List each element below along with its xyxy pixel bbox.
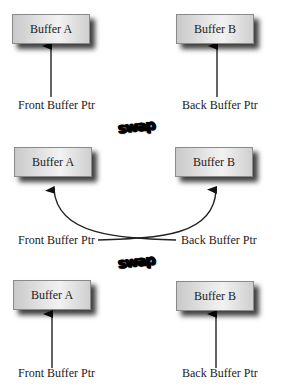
- buffer-a-box-2: Buffer A: [14, 147, 92, 177]
- buffer-b-box-3: Buffer B: [176, 281, 254, 311]
- buffer-b-label-1: Buffer B: [194, 22, 236, 37]
- back-ptr-label-1: Back Buffer Ptr: [182, 98, 258, 113]
- buffer-b-label-3: Buffer B: [194, 289, 236, 304]
- front-ptr-label-3: Front Buffer Ptr: [18, 366, 95, 381]
- back-ptr-label-2: Back Buffer Ptr: [181, 233, 257, 248]
- buffer-a-box-1: Buffer A: [12, 14, 90, 44]
- arrows-layer: [0, 0, 281, 387]
- buffer-a-box-3: Buffer A: [13, 280, 91, 310]
- buffer-b-box-2: Buffer B: [175, 147, 253, 177]
- front-ptr-label-2: Front Buffer Ptr: [18, 233, 95, 248]
- buffer-a-label-1: Buffer A: [30, 22, 72, 37]
- buffer-a-label-3: Buffer A: [31, 288, 73, 303]
- back-ptr-label-3: Back Buffer Ptr: [182, 366, 258, 381]
- buffer-b-box-1: Buffer B: [176, 14, 254, 44]
- buffer-a-label-2: Buffer A: [32, 155, 74, 170]
- front-ptr-label-1: Front Buffer Ptr: [18, 98, 95, 113]
- buffer-b-label-2: Buffer B: [193, 155, 235, 170]
